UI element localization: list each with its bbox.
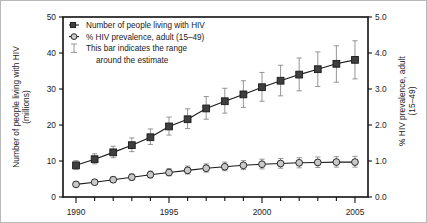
data-point-circle bbox=[110, 176, 117, 183]
series-line-0 bbox=[76, 60, 355, 165]
data-point-circle bbox=[221, 163, 228, 170]
chart-canvas: 010203040500.01.02.03.04.05.019901995200… bbox=[1, 1, 427, 223]
data-point-square bbox=[110, 149, 117, 156]
right-axis-tick-label: 3.0 bbox=[375, 84, 387, 94]
data-point-square bbox=[352, 56, 359, 63]
right-axis-tick-label: 2.0 bbox=[375, 120, 387, 130]
data-point-square bbox=[203, 105, 210, 112]
data-point-square bbox=[91, 156, 98, 163]
left-axis-tick-label: 40 bbox=[47, 48, 57, 58]
left-axis-tick-label: 0 bbox=[51, 192, 56, 202]
data-point-square bbox=[333, 60, 340, 67]
data-point-circle bbox=[166, 169, 173, 176]
left-axis-tick-label: 30 bbox=[47, 84, 57, 94]
right-axis-title: % HIV prevalence, adult bbox=[397, 55, 407, 146]
data-point-circle bbox=[147, 171, 154, 178]
data-point-circle bbox=[314, 159, 321, 166]
data-point-circle bbox=[91, 179, 98, 186]
legend-marker-square bbox=[70, 22, 75, 27]
x-axis-tick-label: 1995 bbox=[160, 207, 179, 217]
data-point-square bbox=[296, 71, 303, 78]
data-point-square bbox=[73, 162, 80, 169]
data-point-square bbox=[314, 66, 321, 73]
data-point-square bbox=[166, 123, 173, 130]
data-point-square bbox=[240, 91, 247, 98]
left-axis-tick-label: 10 bbox=[47, 156, 57, 166]
data-point-circle bbox=[352, 159, 359, 166]
x-axis-tick-label: 1990 bbox=[67, 207, 86, 217]
left-axis-tick-label: 20 bbox=[47, 120, 57, 130]
legend-label-3: around the estimate bbox=[96, 56, 169, 65]
right-axis-tick-label: 5.0 bbox=[375, 12, 387, 22]
right-axis-tick-label: 1.0 bbox=[375, 156, 387, 166]
data-point-circle bbox=[184, 167, 191, 174]
x-axis-tick-label: 2000 bbox=[253, 207, 272, 217]
legend-label-2: This bar indicates the range bbox=[86, 44, 187, 53]
data-point-circle bbox=[259, 161, 266, 168]
right-axis-title-units: (15–49) bbox=[407, 86, 417, 115]
legend-label-1: % HIV prevalence, adult (15–49) bbox=[86, 33, 205, 42]
right-axis-tick-label: 0.0 bbox=[375, 192, 387, 202]
data-point-square bbox=[259, 84, 266, 91]
data-point-circle bbox=[73, 181, 80, 188]
left-axis-tick-label: 50 bbox=[47, 12, 57, 22]
chart-figure: 010203040500.01.02.03.04.05.019901995200… bbox=[0, 0, 427, 223]
data-point-square bbox=[147, 134, 154, 141]
data-point-circle bbox=[203, 165, 210, 172]
data-point-square bbox=[184, 116, 191, 123]
data-point-circle bbox=[240, 162, 247, 169]
data-point-circle bbox=[333, 159, 340, 166]
legend-label-0: Number of people living with HIV bbox=[86, 21, 205, 30]
series-line-1 bbox=[76, 162, 355, 184]
data-point-square bbox=[221, 98, 228, 105]
data-point-circle bbox=[296, 159, 303, 166]
left-axis-title-units: (millions) bbox=[21, 90, 31, 124]
data-point-circle bbox=[277, 160, 284, 167]
data-point-square bbox=[128, 142, 135, 149]
data-point-circle bbox=[128, 174, 135, 181]
right-axis-tick-label: 4.0 bbox=[375, 48, 387, 58]
data-point-square bbox=[277, 77, 284, 84]
legend-marker-circle bbox=[71, 34, 77, 40]
left-axis-title: Number of people living with HIV bbox=[11, 46, 21, 168]
x-axis-tick-label: 2005 bbox=[346, 207, 365, 217]
